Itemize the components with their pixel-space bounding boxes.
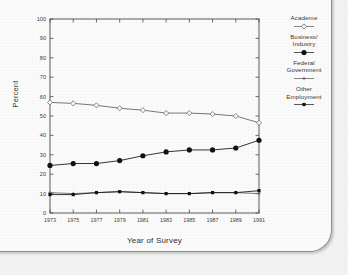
x-axis-tick-label: 1979: [114, 217, 126, 223]
data-point: [117, 106, 122, 111]
data-point: [72, 193, 75, 196]
data-point: [187, 147, 192, 152]
data-point: [234, 191, 237, 194]
data-point: [48, 193, 51, 196]
y-axis-tick-label: 80: [40, 55, 46, 61]
series-line: [50, 140, 259, 165]
legend-entry-label: Business/ Industry: [268, 33, 340, 48]
y-axis-tick-label: 40: [40, 132, 46, 138]
data-point: [140, 153, 145, 158]
data-point: [95, 191, 98, 194]
legend-entry: Academe: [268, 14, 340, 30]
data-point: [94, 161, 99, 166]
data-point: [164, 149, 169, 154]
x-axis-tick-label: 1991: [253, 217, 265, 223]
line-chart-figure: 0102030405060708090100197319751977197919…: [0, 0, 348, 275]
data-point: [211, 191, 214, 194]
x-axis-tick-label: 1989: [230, 217, 242, 223]
y-axis-tick-label: 30: [40, 152, 46, 158]
x-axis-tick-label: 1973: [44, 217, 56, 223]
y-axis-tick-label: 70: [40, 74, 46, 80]
x-axis-tick-label: 1975: [67, 217, 79, 223]
y-axis-tick-label: 90: [40, 35, 46, 41]
data-point: [71, 161, 76, 166]
y-axis-title: Percent: [11, 64, 20, 124]
data-point: [233, 145, 238, 150]
legend-entry-label: Academe: [268, 14, 340, 22]
x-axis-title: Year of Survey: [50, 236, 259, 245]
data-point: [257, 189, 260, 192]
x-axis-tick-label: 1987: [207, 217, 219, 223]
series-line: [50, 191, 259, 195]
scanned-page: 0102030405060708090100197319751977197919…: [0, 0, 348, 275]
data-point: [188, 192, 191, 195]
y-axis-tick-label: 50: [40, 113, 46, 119]
data-point: [165, 192, 168, 195]
data-point: [94, 103, 99, 108]
series-other-employment: [48, 189, 260, 196]
legend-entry-label: Federal Government: [268, 59, 340, 74]
x-axis-tick-label: 1981: [137, 217, 149, 223]
y-axis-tick-label: 0: [43, 210, 46, 216]
legend-entry: Business/ Industry: [268, 33, 340, 56]
data-point: [233, 113, 238, 118]
open-diamond-marker: [289, 23, 319, 30]
legend-entry: Federal Government: [268, 59, 340, 82]
y-axis-tick-label: 60: [40, 94, 46, 100]
data-point: [117, 158, 122, 163]
data-point: [256, 120, 261, 125]
series-business-industry: [47, 138, 261, 168]
data-point: [187, 110, 192, 115]
data-point: [141, 191, 144, 194]
y-axis-tick-label: 20: [40, 171, 46, 177]
x-axis-tick-label: 1985: [183, 217, 195, 223]
x-axis-tick-label: 1983: [160, 217, 172, 223]
data-point: [210, 111, 215, 116]
data-point: [47, 100, 52, 105]
y-axis-tick-label: 10: [40, 191, 46, 197]
filled-circle-marker: [289, 49, 319, 56]
data-point: [257, 192, 260, 195]
data-point: [118, 190, 121, 193]
data-point: [71, 101, 76, 106]
series-academe: [47, 100, 261, 126]
series-line: [50, 102, 259, 122]
small-filled-square-marker: [289, 101, 319, 108]
legend-entry: Other Employment: [268, 85, 340, 108]
y-axis-tick-label: 100: [37, 16, 46, 22]
data-point: [164, 110, 169, 115]
data-point: [210, 147, 215, 152]
chart-legend: AcademeBusiness/ IndustryFederal Governm…: [268, 14, 340, 111]
legend-entry-label: Other Employment: [268, 85, 340, 100]
data-point: [140, 108, 145, 113]
small-cross-marker: [289, 75, 319, 82]
data-point: [47, 163, 52, 168]
plot-frame: [50, 19, 259, 213]
data-point: [256, 138, 261, 143]
x-axis-tick-label: 1977: [90, 217, 102, 223]
